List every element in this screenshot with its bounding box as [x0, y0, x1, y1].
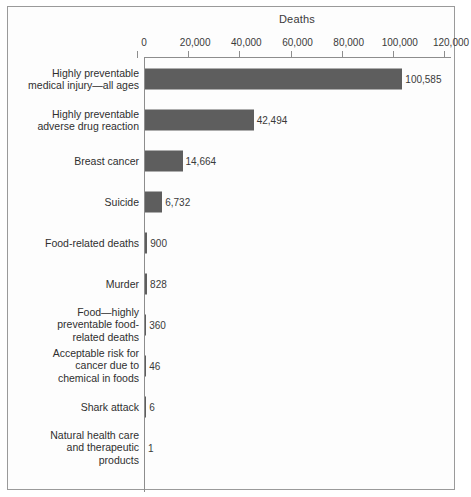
x-tick-label: 100,000 — [382, 37, 418, 48]
bar[interactable] — [145, 109, 254, 130]
bar-track: 42,494 — [145, 109, 287, 130]
bar-row[interactable]: Food-related deaths900 — [8, 222, 471, 263]
bar-rows: Highly preventablemedical injury—all age… — [8, 58, 471, 468]
bar-track: 6,732 — [145, 191, 190, 212]
x-tick-mark — [188, 51, 189, 58]
bar-value-label: 828 — [150, 278, 167, 289]
bar-value-label: 42,494 — [257, 114, 288, 125]
bar[interactable] — [145, 191, 162, 212]
bar-row-label: Acceptable risk forcancer due tochemical… — [0, 347, 139, 385]
bar[interactable] — [145, 273, 147, 294]
bar-track: 828 — [145, 273, 167, 294]
bar-row[interactable]: Food—highlypreventable food-related deat… — [8, 304, 471, 345]
chart-frame: Deaths 020,00040,00060,00080,000100,0001… — [7, 6, 455, 490]
bar-row-label: Highly preventableadverse drug reaction — [0, 107, 139, 132]
x-tick-label: 60,000 — [282, 37, 313, 48]
bar[interactable] — [145, 355, 146, 376]
x-tick-mark — [444, 51, 445, 58]
bar-row-label: Natural health careand therapeuticproduc… — [0, 429, 139, 467]
x-tick-mark — [137, 51, 138, 58]
bar-value-label: 6,732 — [165, 196, 190, 207]
bar-track: 6 — [145, 396, 155, 417]
bar-row-label: Breast cancer — [0, 154, 139, 167]
bar-track: 360 — [145, 314, 166, 335]
x-tick-mark — [239, 51, 240, 58]
bar-track: 900 — [145, 232, 167, 253]
bar-value-label: 900 — [150, 237, 167, 248]
x-tick-mark — [291, 51, 292, 58]
x-tick-label: 40,000 — [231, 37, 262, 48]
bar-row[interactable]: Highly preventablemedical injury—all age… — [8, 58, 471, 99]
x-tick-label: 120,000 — [433, 37, 469, 48]
bar-row-label: Food—highlypreventable food-related deat… — [0, 306, 139, 344]
bar-value-label: 1 — [148, 442, 154, 453]
bar-row-label: Suicide — [0, 195, 139, 208]
bar-row-label: Highly preventablemedical injury—all age… — [0, 66, 139, 91]
bar-track: 1 — [145, 437, 154, 458]
bar-track: 14,664 — [145, 150, 216, 171]
bar-value-label: 100,585 — [405, 73, 441, 84]
bar-row-label: Murder — [0, 277, 139, 290]
bar-row[interactable]: Breast cancer14,664 — [8, 140, 471, 181]
bar-value-label: 14,664 — [186, 155, 217, 166]
bar-track: 46 — [145, 355, 160, 376]
x-tick-label: 0 — [141, 37, 147, 48]
bar-row[interactable]: Suicide6,732 — [8, 181, 471, 222]
bar-value-label: 360 — [149, 319, 166, 330]
bar-value-label: 46 — [149, 360, 160, 371]
bar-row-label: Shark attack — [0, 400, 139, 413]
bar-row[interactable]: Natural health careand therapeuticproduc… — [8, 427, 471, 468]
bar-row[interactable]: Acceptable risk forcancer due tochemical… — [8, 345, 471, 386]
x-tick-label: 20,000 — [180, 37, 211, 48]
bar[interactable] — [145, 314, 146, 335]
x-tick-mark — [393, 51, 394, 58]
chart-title: Deaths — [137, 13, 457, 25]
bar[interactable] — [145, 150, 183, 171]
bar[interactable] — [145, 68, 402, 89]
x-tick-label: 80,000 — [333, 37, 364, 48]
bar-track: 100,585 — [145, 68, 441, 89]
bar-row-label: Food-related deaths — [0, 236, 139, 249]
bar-row[interactable]: Murder828 — [8, 263, 471, 304]
bar-row[interactable]: Shark attack6 — [8, 386, 471, 427]
bar-row[interactable]: Highly preventableadverse drug reaction4… — [8, 99, 471, 140]
x-axis-tick-labels: 020,00040,00060,00080,000100,000120,000 — [8, 37, 471, 51]
bar[interactable] — [145, 232, 147, 253]
x-tick-mark — [342, 51, 343, 58]
bar[interactable] — [145, 396, 146, 417]
bar-value-label: 6 — [149, 401, 155, 412]
